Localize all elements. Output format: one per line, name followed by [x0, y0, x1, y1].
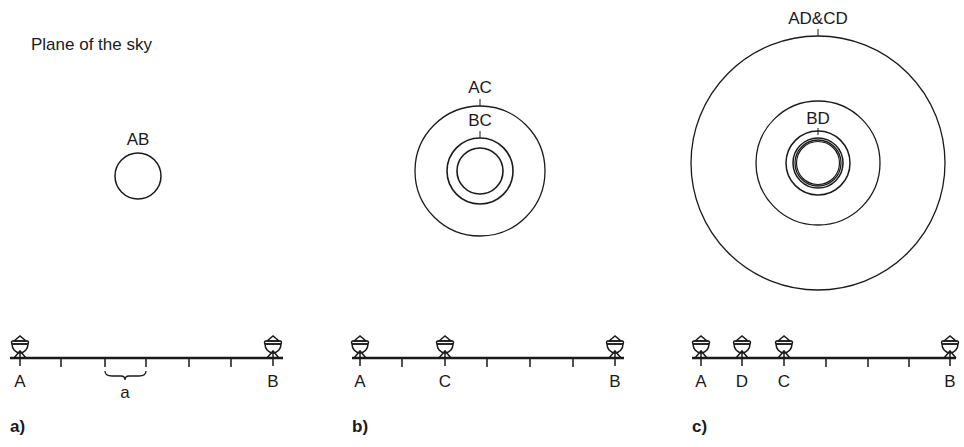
panel-c: AD&CD BD A D C B c) [691, 9, 959, 436]
fringe-circle-ab [795, 140, 841, 186]
plane-of-sky-title: Plane of the sky [31, 35, 152, 54]
baseline-ticks [826, 358, 909, 367]
panel-b: AC BC A C B b) [352, 78, 625, 436]
station-label-b: B [267, 372, 278, 391]
station-label-b: B [944, 372, 955, 391]
antenna-icon [693, 336, 710, 366]
antenna-icon [607, 336, 624, 366]
baseline-ticks [402, 358, 573, 367]
spacing-label: a [120, 383, 130, 402]
panel-a: AB A B a a) [10, 130, 283, 436]
fringe-circle-bc [793, 138, 843, 188]
circle-label-bc: BC [468, 111, 492, 130]
diagram-canvas: Plane of the sky AB A B a a) AC BC [0, 0, 964, 447]
antenna-icon [776, 336, 793, 366]
fringe-circle-ab [115, 153, 161, 199]
station-label-a: A [14, 372, 26, 391]
circle-label-bd: BD [806, 109, 830, 128]
fringe-circle-ab [457, 148, 503, 194]
antenna-icon [942, 336, 959, 366]
circle-label-ac: AC [468, 78, 492, 97]
station-label-d: D [736, 372, 748, 391]
panel-label-b: b) [352, 417, 368, 436]
antenna-icon [734, 336, 751, 366]
station-label-c: C [439, 372, 451, 391]
station-label-b: B [609, 372, 620, 391]
station-label-a: A [695, 372, 707, 391]
fringe-circle-ad-cd [691, 36, 945, 290]
antenna-icon [12, 336, 29, 366]
fringe-circle-inner [797, 142, 840, 185]
circle-label-ad-cd: AD&CD [788, 9, 848, 28]
antenna-icon [437, 336, 454, 366]
station-label-c: C [778, 372, 790, 391]
circle-label-ab: AB [127, 130, 150, 149]
antenna-icon [352, 336, 369, 366]
antenna-icon [265, 336, 282, 366]
baseline-ticks [61, 358, 231, 367]
station-label-a: A [354, 372, 366, 391]
spacing-brace [105, 371, 146, 380]
panel-label-a: a) [10, 417, 25, 436]
panel-label-c: c) [692, 417, 707, 436]
